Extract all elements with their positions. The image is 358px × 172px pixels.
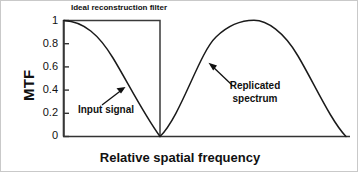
ideal-reconstruction-filter-label: Ideal reconstruction filter bbox=[71, 4, 167, 12]
x-axis-title: Relative spatial frequency bbox=[1, 151, 358, 165]
input-signal-label: Input signal bbox=[63, 105, 149, 116]
y-tick-label-1: 1 bbox=[32, 15, 58, 27]
input-signal-arrow bbox=[102, 87, 126, 105]
chart-figure: 1 0.8 0.6 0.4 0.2 0 MTF Relative spatial… bbox=[0, 0, 358, 172]
input-signal-curve bbox=[64, 21, 160, 137]
replicated-spectrum-curve bbox=[160, 20, 346, 136]
replicated-spectrum-label-line1: Replicated bbox=[206, 81, 304, 92]
replicated-spectrum-label-line2: spectrum bbox=[206, 94, 304, 105]
y-tick-label-0.2: 0.2 bbox=[32, 107, 58, 119]
y-tick-label-0: 0 bbox=[32, 130, 58, 142]
y-tick-label-0.8: 0.8 bbox=[32, 38, 58, 50]
y-axis-title: MTF bbox=[21, 70, 37, 101]
ideal-reconstruction-filter-curve bbox=[64, 21, 160, 137]
